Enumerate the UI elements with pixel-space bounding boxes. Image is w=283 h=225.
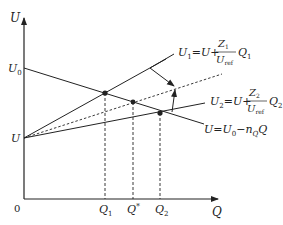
svg-text:Uref: Uref <box>216 54 234 66</box>
u2-equation: U2=U+ Z2 Uref Q2 <box>210 87 283 115</box>
u-star-dashed-line <box>24 74 222 138</box>
qstar-tick-label: Q* <box>127 202 140 216</box>
origin-label: 0 <box>14 203 20 214</box>
svg-text:U=U0−nQQ: U=U0−nQQ <box>204 123 267 138</box>
svg-text:Z2: Z2 <box>248 87 260 99</box>
u-equation: U=U0−nQQ <box>204 123 267 138</box>
q1-tick-label: Q1 <box>99 203 113 218</box>
svg-text:Q2: Q2 <box>269 95 283 110</box>
svg-text:Uref: Uref <box>247 103 265 115</box>
u-line <box>24 68 204 124</box>
u0-tick-label: U0 <box>8 62 22 77</box>
point-q2 <box>157 110 162 115</box>
svg-text:U2=U+: U2=U+ <box>210 95 251 110</box>
x-axis-label: Q <box>212 205 222 219</box>
svg-text:U1=U+: U1=U+ <box>178 46 219 61</box>
u-tick-label: U <box>11 132 21 145</box>
point-q1 <box>102 90 107 95</box>
u1-equation: U1=U+ Z1 Uref Q1 <box>178 38 252 66</box>
q2-tick-label: Q2 <box>155 203 169 218</box>
u1-to-ustar-arrow <box>150 68 174 86</box>
y-axis-label: U <box>10 11 21 25</box>
svg-text:Z1: Z1 <box>217 38 229 50</box>
u1-line <box>24 59 166 138</box>
diagram-canvas: U Q 0 U0 U Q1 Q* Q2 U1=U+ Z1 Uref Q1 U2=… <box>0 0 283 225</box>
u2-line <box>24 103 205 138</box>
point-qstar <box>131 100 136 105</box>
svg-text:Q1: Q1 <box>238 46 252 61</box>
u1-leader <box>150 54 174 68</box>
